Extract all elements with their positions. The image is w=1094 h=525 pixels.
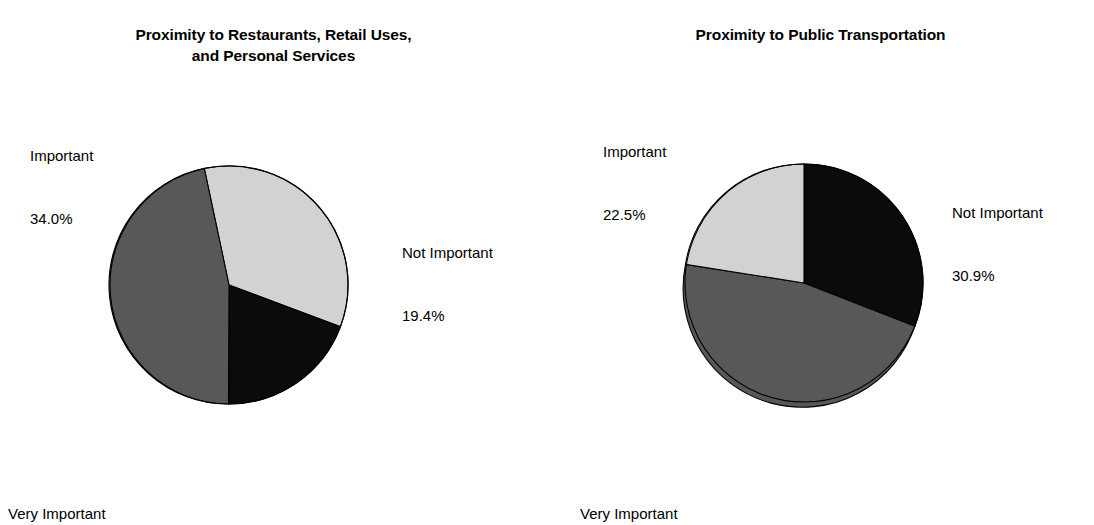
chart-title-right: Proximity to Public Transportation (547, 24, 1094, 45)
pie-left-svg (109, 165, 349, 405)
pie-label-very-important-right: Very Important 46.6% (580, 461, 678, 525)
pie-label-not-important-right: Not Important 30.9% (952, 160, 1043, 328)
pie-label-very-important-left: Very Important 46.6% (8, 461, 106, 525)
pie-right-svg (684, 163, 924, 403)
pie-chart-panel-right: Proximity to Public Transportation Impor… (547, 0, 1094, 525)
pie-label-not-important-left-name: Not Important (402, 242, 493, 263)
pie-label-not-important-right-name: Not Important (952, 202, 1043, 223)
chart-title-left: Proximity to Restaurants, Retail Uses, a… (0, 24, 547, 66)
pie-chart-panel-left: Proximity to Restaurants, Retail Uses, a… (0, 0, 547, 525)
pie-slice-important-right[interactable] (685, 164, 804, 283)
pie-label-important-left: Important 34.0% (30, 103, 93, 271)
pie-label-important-right: Important 22.5% (603, 99, 666, 267)
figure-canvas: Proximity to Restaurants, Retail Uses, a… (0, 0, 1094, 525)
pie-label-important-right-value: 22.5% (603, 204, 666, 225)
pie-label-important-left-name: Important (30, 145, 93, 166)
pie-slice-very-important-left[interactable] (109, 168, 229, 404)
pie-label-very-important-left-name: Very Important (8, 503, 106, 524)
pie-right (684, 163, 924, 403)
pie-label-not-important-left: Not Important 19.4% (402, 200, 493, 368)
pie-label-important-left-value: 34.0% (30, 208, 93, 229)
pie-label-important-right-name: Important (603, 141, 666, 162)
pie-left (109, 165, 349, 405)
pie-label-very-important-right-name: Very Important (580, 503, 678, 524)
pie-label-not-important-left-value: 19.4% (402, 305, 493, 326)
pie-label-not-important-right-value: 30.9% (952, 265, 1043, 286)
